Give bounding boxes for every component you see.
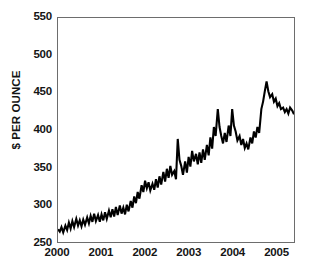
y-tick-label: 300 (22, 199, 52, 210)
x-tick-label: 2000 (37, 246, 77, 259)
x-tick-label: 2001 (81, 246, 121, 259)
x-tick-label: 2002 (125, 246, 165, 259)
y-tick-label: 500 (22, 49, 52, 60)
y-tick-label: 550 (22, 11, 52, 22)
series-line-gold-price (58, 81, 294, 232)
x-tick-label: 2003 (169, 246, 209, 259)
series-line-chart (58, 18, 294, 242)
y-axis-tick-labels: 250300350400450500550 (18, 0, 52, 279)
y-tick-label: 350 (22, 162, 52, 173)
plot-area (57, 17, 295, 243)
x-axis-tick-labels: 200020012002200320042005 (0, 246, 313, 264)
y-tick-label: 450 (22, 86, 52, 97)
y-tick-label: 400 (22, 124, 52, 135)
chart-screenshot: $ PER OUNCE 250300350400450500550 200020… (0, 0, 313, 279)
x-tick-label: 2004 (213, 246, 253, 259)
x-tick-label: 2005 (257, 246, 297, 259)
